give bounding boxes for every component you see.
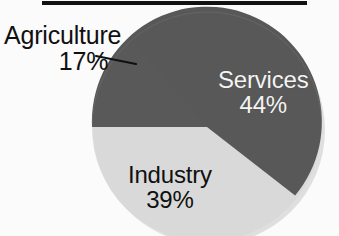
pie-label-industry: Industry 39% [128, 163, 212, 213]
pie-label-services-value: 44% [218, 93, 308, 118]
pie-label-agriculture-name: Agriculture [4, 22, 121, 48]
pie-label-services: Services 44% [218, 68, 308, 118]
pie-label-agriculture-value: 17% [4, 48, 121, 74]
pie-label-services-name: Services [218, 68, 308, 93]
pie-chart-figure: Agriculture 17% Services 44% Industry 39… [0, 0, 339, 236]
pie-label-industry-name: Industry [128, 163, 212, 188]
pie-label-agriculture: Agriculture 17% [4, 22, 121, 74]
pie-label-industry-value: 39% [128, 188, 212, 213]
